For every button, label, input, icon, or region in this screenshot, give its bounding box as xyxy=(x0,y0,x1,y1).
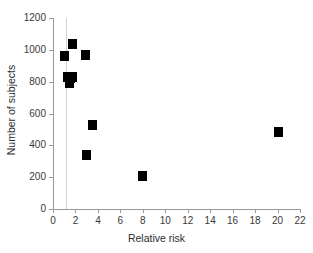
x-tick-label: 18 xyxy=(243,215,267,226)
x-tick-label: 10 xyxy=(153,215,177,226)
data-point-marker xyxy=(81,50,90,60)
data-point-marker xyxy=(88,120,97,130)
x-tick-mark xyxy=(255,209,256,213)
data-point-marker xyxy=(68,39,77,49)
x-tick-label: 0 xyxy=(41,215,65,226)
y-tick-mark xyxy=(49,145,53,146)
x-tick-label: 20 xyxy=(266,215,290,226)
data-point-marker xyxy=(82,150,91,160)
y-tick-mark xyxy=(49,177,53,178)
y-tick-mark xyxy=(49,50,53,51)
x-tick-label: 8 xyxy=(131,215,155,226)
x-tick-label: 14 xyxy=(198,215,222,226)
x-tick-label: 12 xyxy=(176,215,200,226)
x-tick-mark xyxy=(143,209,144,213)
y-axis-label: Number of subjects xyxy=(5,35,17,185)
x-tick-label: 4 xyxy=(86,215,110,226)
data-point-marker xyxy=(138,171,147,181)
scatter-chart: 020040060080010001200 024681012141618202… xyxy=(0,0,313,253)
x-tick-label: 22 xyxy=(288,215,312,226)
y-tick-mark xyxy=(49,114,53,115)
x-tick-mark xyxy=(188,209,189,213)
x-tick-mark xyxy=(120,209,121,213)
y-tick-label: 1200 xyxy=(6,13,46,23)
x-tick-mark xyxy=(233,209,234,213)
y-tick-label: 0 xyxy=(6,204,46,214)
x-tick-mark xyxy=(165,209,166,213)
x-axis-line xyxy=(53,209,300,210)
x-tick-mark xyxy=(75,209,76,213)
x-tick-label: 2 xyxy=(63,215,87,226)
x-axis-label: Relative risk xyxy=(0,232,313,244)
x-tick-label: 16 xyxy=(221,215,245,226)
x-tick-mark xyxy=(300,209,301,213)
y-tick-mark xyxy=(49,18,53,19)
x-tick-mark xyxy=(278,209,279,213)
x-tick-mark xyxy=(210,209,211,213)
data-point-marker xyxy=(274,127,283,137)
x-tick-mark xyxy=(98,209,99,213)
x-tick-label: 6 xyxy=(108,215,132,226)
y-axis-line xyxy=(53,18,54,209)
x-tick-mark xyxy=(53,209,54,213)
data-point-marker xyxy=(65,78,74,88)
y-tick-mark xyxy=(49,82,53,83)
data-point-marker xyxy=(60,51,69,61)
